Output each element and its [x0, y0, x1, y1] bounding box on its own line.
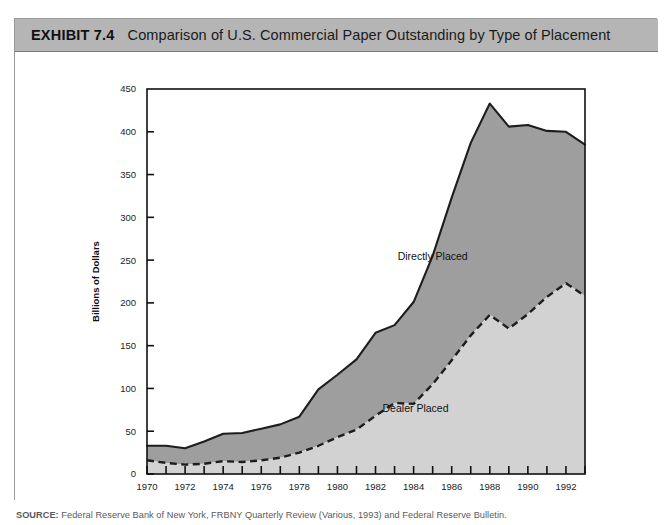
- y-tick-label: 450: [120, 83, 136, 94]
- y-tick-label: 300: [120, 212, 136, 223]
- x-tick-label: 1992: [555, 481, 576, 492]
- x-tick-label: 1980: [327, 481, 348, 492]
- exhibit-title: Comparison of U.S. Commercial Paper Outs…: [128, 27, 611, 43]
- x-tick-label: 1990: [517, 481, 538, 492]
- x-tick-label: 1984: [403, 481, 424, 492]
- y-tick-label: 250: [120, 255, 136, 266]
- y-tick-label: 200: [120, 297, 136, 308]
- y-axis-title-group: Billions of Dollars: [90, 241, 101, 322]
- exhibit-header: EXHIBIT 7.4 Comparison of U.S. Commercia…: [15, 19, 658, 52]
- source-label: SOURCE:: [16, 510, 59, 520]
- y-axis-title: Billions of Dollars: [90, 241, 101, 322]
- area-chart: 050100150200250300350400450 Billions of …: [15, 52, 658, 500]
- x-tick-label: 1986: [441, 481, 462, 492]
- chart-area: 050100150200250300350400450 Billions of …: [15, 52, 658, 500]
- y-tick-label: 400: [120, 126, 136, 137]
- source-text: Federal Reserve Bank of New York, FRBNY …: [59, 510, 507, 520]
- x-tick-label: 1972: [175, 481, 196, 492]
- exhibit-number: EXHIBIT 7.4: [31, 27, 115, 43]
- series-annotation-dealer-placed: Dealer Placed: [383, 402, 449, 414]
- x-tick-label: 1974: [213, 481, 234, 492]
- exhibit-frame: EXHIBIT 7.4 Comparison of U.S. Commercia…: [14, 18, 657, 500]
- y-axis-tick-labels: 050100150200250300350400450: [120, 83, 136, 479]
- y-tick-label: 0: [131, 468, 136, 479]
- y-tick-label: 150: [120, 340, 136, 351]
- series-annotation-directly-placed: Directly Placed: [398, 250, 468, 262]
- x-axis-tick-labels: 1970197219741976197819801982198419861988…: [136, 481, 576, 492]
- y-tick-label: 50: [125, 426, 136, 437]
- y-tick-label: 350: [120, 169, 136, 180]
- y-tick-label: 100: [120, 383, 136, 394]
- source-note: SOURCE: Federal Reserve Bank of New York…: [16, 510, 666, 520]
- x-tick-label: 1978: [289, 481, 310, 492]
- x-tick-label: 1982: [365, 481, 386, 492]
- x-tick-label: 1976: [251, 481, 272, 492]
- y-axis-ticks: [147, 132, 154, 474]
- series-areas: [147, 104, 585, 474]
- x-tick-label: 1988: [479, 481, 500, 492]
- x-tick-label: 1970: [136, 481, 157, 492]
